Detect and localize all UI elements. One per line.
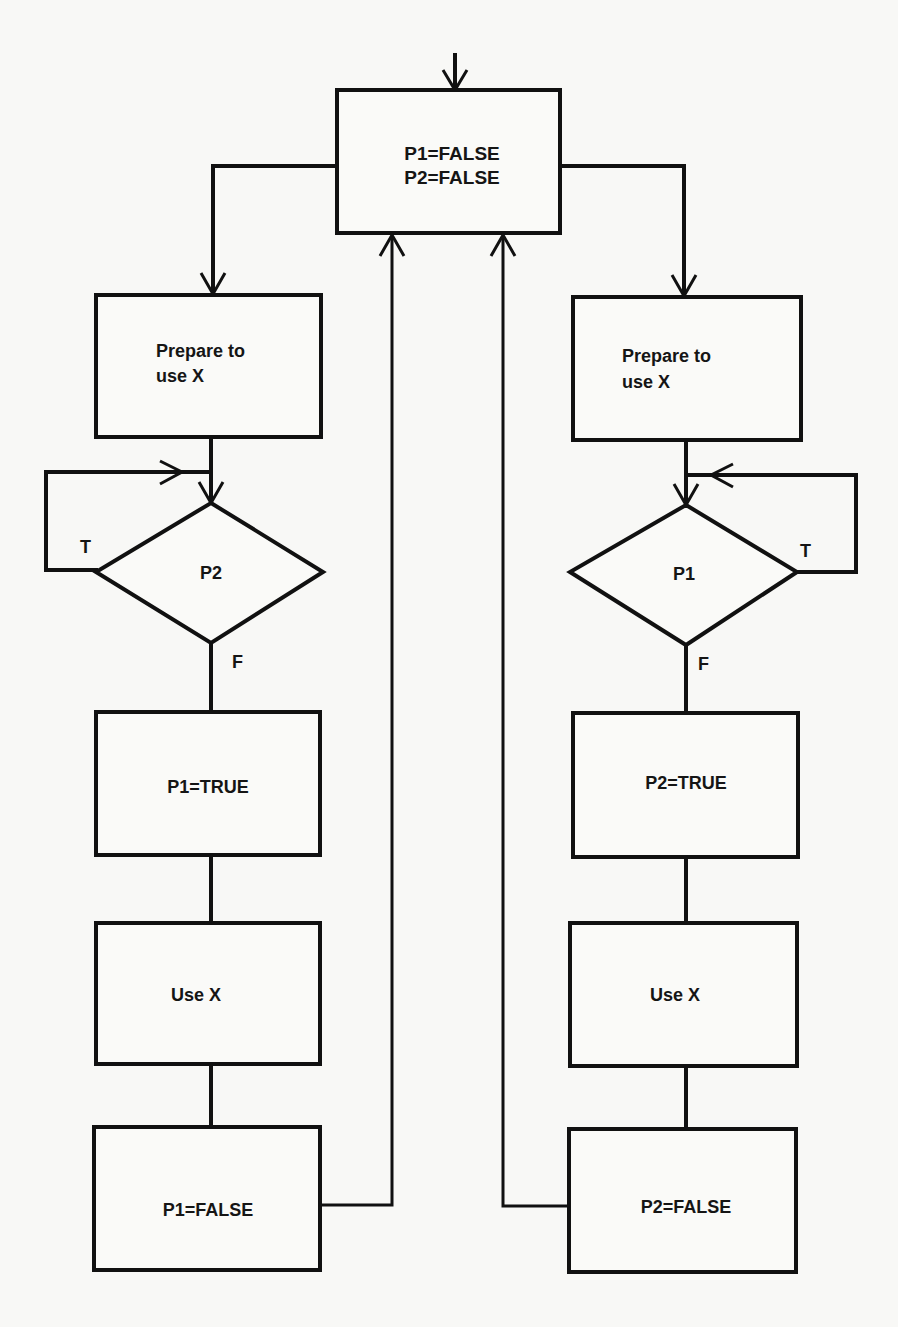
left-use-label: Use X [171,985,221,1005]
right-true-label: T [800,541,811,561]
flowchart-svg: P1=FALSE P2=FALSE Prepare to use X [0,0,898,1327]
right-use-label: Use X [650,985,700,1005]
right-prepare-to-decision [674,440,698,505]
left-true-label: T [80,537,91,557]
left-set-false-label: P1=FALSE [163,1200,254,1220]
right-decision-label: P1 [673,564,695,584]
right-branch-connector [560,166,696,296]
left-false-label: F [232,652,243,672]
left-decision-diamond: P2 [96,503,323,643]
left-branch-connector [201,166,337,294]
right-prepare-line1: Prepare to [622,346,711,366]
left-set-false-box: P1=FALSE [94,1127,320,1270]
left-prepare-line1: Prepare to [156,341,245,361]
init-box: P1=FALSE P2=FALSE [337,90,560,233]
right-use-box: Use X [570,923,797,1066]
right-decision-diamond: P1 [570,505,797,645]
left-prepare-line2: use X [156,366,204,386]
left-prepare-box: Prepare to use X [96,295,321,437]
right-prepare-box: Prepare to use X [573,297,801,440]
init-line1: P1=FALSE [404,143,500,164]
entry-arrow [443,55,467,90]
right-prepare-line2: use X [622,372,670,392]
right-set-false-label: P2=FALSE [641,1197,732,1217]
right-set-true-label: P2=TRUE [645,773,727,793]
right-return-line [491,235,569,1206]
left-return-line [320,235,404,1205]
flowchart-canvas: P1=FALSE P2=FALSE Prepare to use X [0,0,898,1327]
right-false-label: F [698,654,709,674]
left-decision-label: P2 [200,563,222,583]
left-set-true-box: P1=TRUE [96,712,320,855]
left-set-true-label: P1=TRUE [167,777,249,797]
right-set-false-box: P2=FALSE [569,1129,796,1272]
init-line2: P2=FALSE [404,167,500,188]
right-set-true-box: P2=TRUE [573,713,798,857]
left-use-box: Use X [96,923,320,1064]
